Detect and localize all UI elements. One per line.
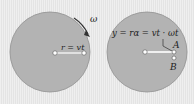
point-b <box>172 56 176 60</box>
displacement-label: y = rα = vt · ωt <box>111 28 179 38</box>
point-b-label: B <box>169 62 177 72</box>
center-point <box>53 51 57 55</box>
omega-label: ω <box>90 14 98 24</box>
left-disc-shape <box>10 12 90 92</box>
center-point <box>143 50 147 54</box>
right-disc: y = rα = vt · ωt A B <box>107 12 187 92</box>
point-a-label: A <box>172 40 180 50</box>
point-a <box>172 50 176 54</box>
diagram-svg: ω r = vt y = rα = vt · ωt A B <box>0 0 194 104</box>
radius-label: r = vt <box>61 43 85 52</box>
left-disc: ω r = vt <box>10 12 98 92</box>
diagram-canvas: ω r = vt y = rα = vt · ωt A B <box>0 0 194 104</box>
